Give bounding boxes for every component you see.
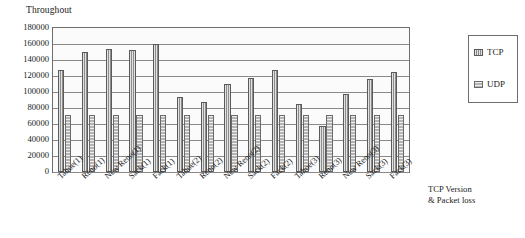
y-axis-tick-label: 40000 — [3, 135, 49, 144]
y-axis-tick-labels: 1800001600001400001200001000008000060000… — [0, 27, 49, 173]
bar-group — [53, 28, 77, 172]
bar-group — [267, 28, 291, 172]
bar-group — [77, 28, 101, 172]
y-axis-tick-label: 0 — [3, 167, 49, 176]
bar-group — [385, 28, 409, 172]
bar-tcp — [319, 126, 325, 172]
bar-tcp — [224, 84, 230, 172]
bar-tcp — [343, 94, 349, 172]
bars-layer — [53, 28, 409, 172]
bar-group — [314, 28, 338, 172]
x-axis-title: TCP Version& Packet loss — [428, 184, 523, 206]
y-axis-tick-label: 80000 — [3, 103, 49, 112]
bar-tcp — [58, 70, 64, 172]
y-axis-title: Throughout — [26, 5, 72, 15]
y-axis-tick-label: 120000 — [3, 71, 49, 80]
bar-tcp — [106, 49, 112, 172]
bar-tcp — [391, 72, 397, 172]
y-axis-tick-label: 60000 — [3, 119, 49, 128]
bar-tcp — [177, 97, 183, 172]
x-axis-tick-labels: Tahoe(1)Reno(1)New Reno(1)Sack(1)Fack(1)… — [53, 174, 409, 232]
legend-swatch-udp-icon — [474, 81, 483, 88]
legend-entry-udp: UDP — [474, 80, 505, 89]
y-axis-tick-label: 100000 — [3, 87, 49, 96]
y-axis-tick-label: 160000 — [3, 39, 49, 48]
y-axis-tick-label: 20000 — [3, 151, 49, 160]
y-axis-tick-label: 140000 — [3, 55, 49, 64]
bar-group — [148, 28, 172, 172]
bar-group — [290, 28, 314, 172]
legend-label: UDP — [487, 80, 505, 89]
bar-group — [219, 28, 243, 172]
legend-swatch-tcp-icon — [474, 49, 483, 56]
x-axis-title-line-2: & Packet loss — [428, 195, 523, 206]
bar-group — [172, 28, 196, 172]
y-axis-tick-label: 180000 — [3, 23, 49, 32]
bar-tcp — [153, 44, 159, 172]
bar-group — [195, 28, 219, 172]
bar-group — [100, 28, 124, 172]
bar-tcp — [82, 52, 88, 172]
legend-entry-tcp: TCP — [474, 48, 504, 57]
x-axis-title-line-1: TCP Version — [428, 184, 523, 195]
chart-legend: TCPUDP — [468, 35, 518, 103]
bar-tcp — [272, 70, 278, 172]
legend-label: TCP — [487, 48, 504, 57]
bar-chart: Throughout 18000016000014000012000010000… — [0, 0, 525, 238]
bar-group — [338, 28, 362, 172]
bar-tcp — [296, 104, 302, 172]
